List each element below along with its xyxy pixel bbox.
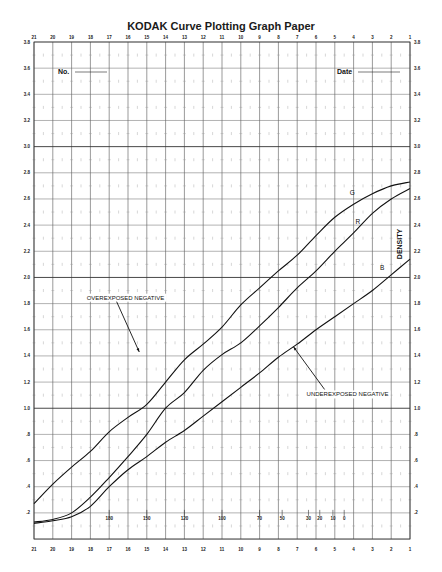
x-tick-bottom: 2 xyxy=(390,547,393,552)
x-tick-top: 19 xyxy=(69,35,75,40)
y-tick-right: 3.6 xyxy=(414,66,421,71)
x-tick-top: 1 xyxy=(409,35,412,40)
y-tick-right: 1.0 xyxy=(414,406,421,411)
y-tick-right: 2.8 xyxy=(414,170,421,175)
y-tick-left: 3.2 xyxy=(24,118,31,123)
y-tick-left: 2.8 xyxy=(24,170,31,175)
y-tick-right: .6 xyxy=(414,458,418,463)
secondary-scale-label: 0 xyxy=(343,516,346,521)
x-tick-bottom: 13 xyxy=(182,547,188,552)
x-tick-bottom: 6 xyxy=(315,547,318,552)
secondary-scale-label: 30 xyxy=(306,516,312,521)
date-field: Date xyxy=(337,68,400,75)
x-tick-bottom: 21 xyxy=(31,547,37,552)
x-tick-top: 8 xyxy=(277,35,280,40)
x-tick-top: 17 xyxy=(107,35,113,40)
x-tick-bottom: 20 xyxy=(50,547,56,552)
y-tick-left: 3.6 xyxy=(24,66,31,71)
y-tick-right: 1.8 xyxy=(414,301,421,306)
y-tick-left: .6 xyxy=(26,458,30,463)
x-tick-top: 7 xyxy=(296,35,299,40)
secondary-scale-label: 180 xyxy=(105,516,113,521)
y-tick-right: .4 xyxy=(414,484,418,489)
x-tick-top: 10 xyxy=(238,35,244,40)
y-tick-right: 1.4 xyxy=(414,353,421,358)
no-field: No. xyxy=(58,68,107,75)
x-tick-bottom: 9 xyxy=(258,547,261,552)
x-tick-top: 6 xyxy=(315,35,318,40)
date-label: Date xyxy=(337,68,352,75)
secondary-scale: 18015012010070503020100 xyxy=(105,510,346,521)
density-axis-label: DENSITY xyxy=(396,229,403,260)
x-tick-bottom: 15 xyxy=(144,547,150,552)
x-tick-bottom: 18 xyxy=(88,547,94,552)
y-tick-right: 3.2 xyxy=(414,118,421,123)
x-tick-top: 2 xyxy=(390,35,393,40)
y-tick-left: .8 xyxy=(26,432,30,437)
y-tick-left: 1.2 xyxy=(24,380,31,385)
y-tick-right: .8 xyxy=(414,432,418,437)
x-tick-top: 5 xyxy=(334,35,337,40)
curve-label-b: B xyxy=(380,264,384,271)
y-tick-left: 2.4 xyxy=(24,223,31,228)
y-tick-right: 1.2 xyxy=(414,380,421,385)
y-tick-right: 3.4 xyxy=(414,92,421,97)
y-tick-left: 1.4 xyxy=(24,353,31,358)
y-tick-right: 2.0 xyxy=(414,275,421,280)
y-tick-right: 2.6 xyxy=(414,196,421,201)
x-tick-bottom: 4 xyxy=(352,547,355,552)
chart-title: KODAK Curve Plotting Graph Paper xyxy=(127,20,315,32)
x-tick-bottom: 5 xyxy=(334,547,337,552)
x-tick-top: 16 xyxy=(125,35,131,40)
underexposed-label: UNDEREXPOSED NEGATIVE xyxy=(307,391,389,397)
y-tick-left: .2 xyxy=(26,510,30,515)
y-tick-right: 2.2 xyxy=(414,249,421,254)
grid xyxy=(33,42,412,539)
secondary-scale-label: 100 xyxy=(218,516,226,521)
y-tick-left: 3.4 xyxy=(24,92,31,97)
x-tick-top: 20 xyxy=(50,35,56,40)
secondary-scale-label: 70 xyxy=(257,516,263,521)
y-tick-left: 2.2 xyxy=(24,249,31,254)
x-tick-bottom: 8 xyxy=(277,547,280,552)
y-tick-left: .4 xyxy=(26,484,30,489)
secondary-scale-label: 150 xyxy=(143,516,151,521)
curve-label-r: R xyxy=(355,218,360,225)
no-label: No. xyxy=(58,68,69,75)
x-tick-bottom: 10 xyxy=(238,547,244,552)
secondary-scale-label: 20 xyxy=(317,516,323,521)
x-tick-bottom: 12 xyxy=(201,547,207,552)
y-tick-left: 2.6 xyxy=(24,196,31,201)
y-tick-left: 2.0 xyxy=(24,275,31,280)
y-tick-right: .2 xyxy=(414,510,418,515)
x-tick-top: 18 xyxy=(88,35,94,40)
x-tick-top: 15 xyxy=(144,35,150,40)
x-tick-top: 12 xyxy=(201,35,207,40)
graph-paper-chart: KODAK Curve Plotting Graph Paper 2120191… xyxy=(0,0,442,572)
x-tick-bottom: 1 xyxy=(409,547,412,552)
x-tick-top: 14 xyxy=(163,35,169,40)
x-tick-bottom: 7 xyxy=(296,547,299,552)
secondary-scale-label: 10 xyxy=(330,516,336,521)
y-tick-right: 2.4 xyxy=(414,223,421,228)
y-tick-left: 3.8 xyxy=(24,40,31,45)
secondary-scale-label: 120 xyxy=(181,516,189,521)
x-tick-bottom: 19 xyxy=(69,547,75,552)
overexposed-label: OVEREXPOSED NEGATIVE xyxy=(87,295,165,301)
y-tick-left: 1.6 xyxy=(24,327,31,332)
x-tick-bottom: 16 xyxy=(125,547,131,552)
x-tick-top: 13 xyxy=(182,35,188,40)
x-tick-top: 4 xyxy=(352,35,355,40)
secondary-scale-label: 50 xyxy=(280,516,286,521)
x-tick-top: 21 xyxy=(31,35,37,40)
y-tick-left: 3.0 xyxy=(24,144,31,149)
arrowhead-icon xyxy=(136,348,139,352)
y-tick-left: 1.0 xyxy=(24,406,31,411)
x-tick-bottom: 11 xyxy=(220,547,225,552)
x-tick-top: 9 xyxy=(258,35,261,40)
x-tick-bottom: 17 xyxy=(107,547,113,552)
x-tick-bottom: 3 xyxy=(371,547,374,552)
y-tick-left: 1.8 xyxy=(24,301,31,306)
y-tick-right: 3.8 xyxy=(414,40,421,45)
y-tick-right: 1.6 xyxy=(414,327,421,332)
